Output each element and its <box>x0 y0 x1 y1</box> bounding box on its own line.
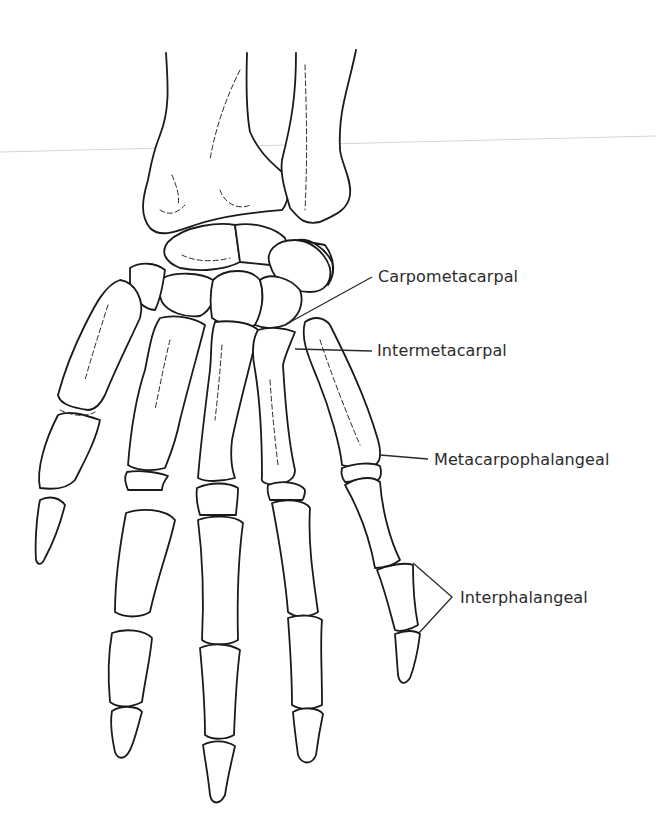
middle-mcp-head <box>197 484 238 516</box>
label-carpometacarpal: Carpometacarpal <box>378 267 518 287</box>
ring-middle-phalanx <box>288 616 322 709</box>
interphalangeal-leader-lines <box>413 563 452 633</box>
middle-proximal-phalanx <box>198 517 243 645</box>
label-metacarpophalangeal: Metacarpophalangeal <box>434 450 610 470</box>
index-finger-bones <box>109 316 205 757</box>
ring-metacarpal <box>253 328 295 485</box>
index-middle-phalanx <box>109 630 152 706</box>
index-distal-phalanx <box>111 707 142 758</box>
thumb-metacarpal <box>58 280 141 410</box>
little-distal-phalanx <box>395 631 420 683</box>
hand-skeleton-diagram: Carpometacarpal Intermetacarpal Metacarp… <box>0 0 656 837</box>
ring-finger-bones <box>253 328 323 763</box>
little-middle-phalanx <box>377 564 418 631</box>
middle-metacarpal <box>198 321 258 481</box>
metacarpophalangeal-leader-line <box>380 455 428 459</box>
thumb-proximal-phalanx <box>39 413 100 489</box>
middle-distal-phalanx <box>203 741 235 802</box>
thumb-distal-phalanx <box>36 498 65 564</box>
radius-bone <box>143 53 288 233</box>
trapezium-bone <box>159 274 214 317</box>
middle-middle-phalanx <box>200 644 240 738</box>
hand-bones-illustration <box>0 0 656 837</box>
ulna-bone <box>282 50 356 223</box>
ring-distal-phalanx <box>293 708 323 762</box>
little-proximal-phalanx <box>345 478 400 568</box>
label-intermetacarpal: Intermetacarpal <box>377 341 507 361</box>
ring-mcp-head <box>268 482 305 500</box>
index-metacarpal <box>128 316 205 470</box>
index-proximal-phalanx <box>115 510 175 617</box>
capitate-bone <box>211 271 263 328</box>
carpal-bones <box>130 224 333 328</box>
label-interphalangeal: Interphalangeal <box>460 588 588 608</box>
little-metacarpal <box>304 318 380 467</box>
index-mcp-head <box>125 471 168 490</box>
ring-proximal-phalanx <box>272 500 318 616</box>
middle-finger-bones <box>197 321 258 802</box>
